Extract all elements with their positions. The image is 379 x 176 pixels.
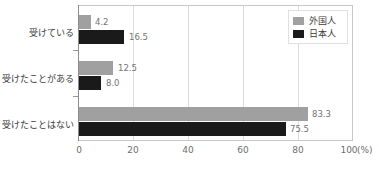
legend-item-nihonjin: 日本人	[293, 27, 343, 40]
bar-gaikokujin-2	[79, 107, 308, 121]
bar-value-gaikokujin-1: 12.5	[118, 61, 137, 75]
bar-value-gaikokujin-0: 4.2	[95, 15, 109, 29]
category-label-2: 受けたことはない	[0, 118, 74, 131]
x-axis-unit-label: (%)	[357, 145, 373, 155]
bar-value-gaikokujin-2: 83.3	[312, 107, 331, 121]
bar-nihonjin-0	[79, 30, 124, 44]
bar-value-nihonjin-0: 16.5	[129, 30, 148, 44]
y-axis-tick-2	[73, 96, 78, 97]
bar-nihonjin-2	[79, 122, 286, 136]
x-tick-label-60: 60	[237, 145, 248, 155]
x-tick-label-0: 0	[76, 145, 82, 155]
bar-value-nihonjin-1: 8.0	[106, 76, 120, 90]
legend-label-nihonjin: 日本人	[309, 27, 336, 40]
legend-swatch-icon-nihonjin	[293, 30, 304, 38]
bar-chart: 4.2 16.5 12.5 8.0 83.3 75.5 受けている 受けたことが…	[0, 0, 379, 176]
bar-value-nihonjin-2: 75.5	[290, 122, 309, 136]
bar-gaikokujin-1	[79, 61, 113, 75]
category-label-1: 受けたことがある	[0, 72, 74, 85]
category-label-0: 受けている	[0, 26, 74, 39]
x-tick-label-80: 80	[292, 145, 303, 155]
x-tick-label-100: 100	[340, 145, 357, 155]
x-tick-label-40: 40	[182, 145, 193, 155]
legend-swatch-icon-gaikokujin	[293, 17, 304, 25]
legend: 外国人 日本人	[288, 10, 348, 44]
x-tick-label-20: 20	[127, 145, 138, 155]
y-axis-tick-1	[73, 50, 78, 51]
legend-label-gaikokujin: 外国人	[309, 14, 336, 27]
bar-gaikokujin-0	[79, 15, 91, 29]
legend-item-gaikokujin: 外国人	[293, 14, 343, 27]
bar-nihonjin-1	[79, 76, 101, 90]
